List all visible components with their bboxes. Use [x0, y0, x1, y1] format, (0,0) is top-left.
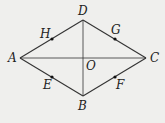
label-c: C: [150, 51, 159, 65]
point-h-dot: [50, 37, 53, 40]
label-e: E: [42, 78, 52, 92]
label-a: A: [7, 51, 17, 65]
label-b: B: [77, 99, 87, 113]
label-o: O: [86, 59, 96, 73]
label-h: H: [39, 27, 51, 41]
rhombus-figure: ABCDOHGEF: [0, 0, 165, 123]
point-g-dot: [113, 37, 116, 40]
label-d: D: [77, 4, 88, 18]
label-f: F: [115, 78, 125, 92]
label-g: G: [111, 23, 121, 37]
rhombus-diagram-svg: ABCDOHGEF: [0, 0, 165, 123]
